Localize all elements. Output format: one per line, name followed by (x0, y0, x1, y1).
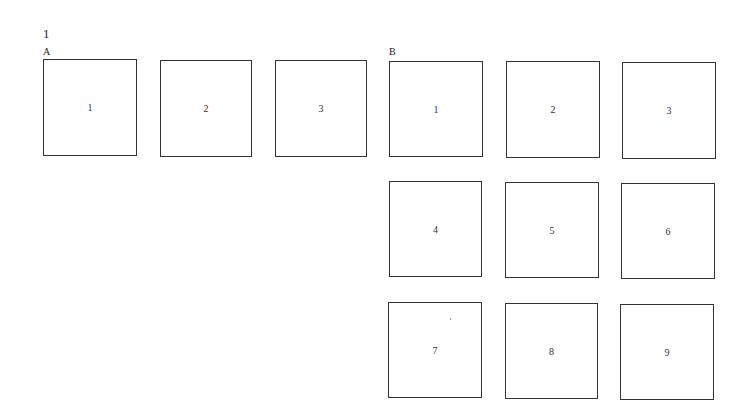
group-b-box-6: 6 (621, 183, 715, 279)
figure-number: 1 (43, 27, 50, 40)
group-b-box-3: 3 (622, 62, 716, 159)
box-number: 3 (319, 103, 324, 114)
group-b-box-9: 9 (620, 304, 714, 400)
box-number: 2 (204, 103, 209, 114)
box-number: 1 (434, 104, 439, 115)
box-number: 8 (549, 346, 554, 357)
group-b-box-8: 8 (505, 303, 598, 399)
group-b-label: B (389, 47, 396, 57)
box-number: 2 (551, 104, 556, 115)
box-number: 4 (433, 224, 438, 235)
group-b-box-5: 5 (505, 182, 599, 278)
group-a-box-3: 3 (275, 60, 367, 157)
box-number: 9 (665, 347, 670, 358)
scan-speck (450, 318, 451, 320)
group-b-box-4: 4 (389, 181, 482, 277)
group-b-box-2: 2 (506, 61, 600, 158)
group-a-box-2: 2 (160, 60, 252, 157)
group-b-box-7: 7 (388, 302, 482, 398)
group-b-box-1: 1 (389, 61, 483, 157)
box-number: 7 (433, 345, 438, 356)
group-a-label: A (43, 47, 50, 57)
box-number: 5 (550, 225, 555, 236)
group-a-box-1: 1 (43, 59, 137, 156)
box-number: 3 (667, 105, 672, 116)
box-number: 1 (88, 102, 93, 113)
box-number: 6 (666, 226, 671, 237)
